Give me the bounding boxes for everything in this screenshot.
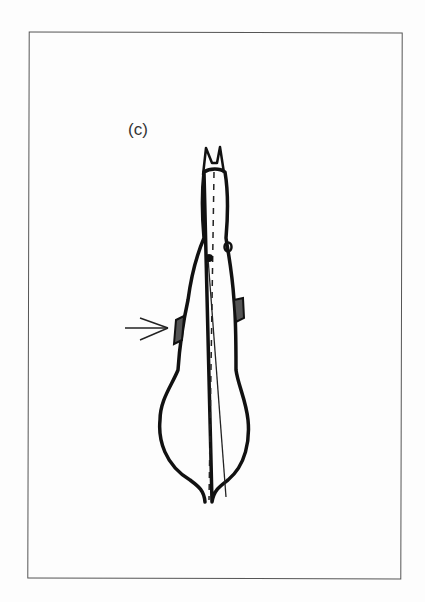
left-marker-dot	[205, 254, 213, 262]
horse-outline	[160, 169, 249, 502]
arrow-icon	[125, 318, 168, 340]
right-shoulder-mark	[234, 298, 244, 322]
left-shoulder-mark	[174, 316, 184, 344]
horse-drawing	[0, 0, 425, 602]
